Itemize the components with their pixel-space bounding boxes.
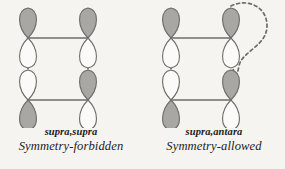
lobe-empty-top bbox=[163, 70, 180, 100]
lobe-shaded-top bbox=[223, 8, 240, 38]
lobe-empty-bottom bbox=[80, 100, 97, 128]
lobe-shaded-top bbox=[20, 8, 37, 38]
orbital-diagram-supra-supra bbox=[0, 0, 142, 128]
caption-supra-supra: supra,supra Symmetry-forbidden bbox=[0, 126, 142, 153]
orbital-bottom-left bbox=[163, 70, 180, 128]
orbital-bottom-left bbox=[20, 70, 37, 128]
verdict-label: Symmetry-forbidden bbox=[0, 139, 142, 153]
lobe-empty-top bbox=[20, 70, 37, 100]
panel-supra-antara: supra,antara Symmetry-allowed bbox=[143, 0, 285, 169]
lobe-shaded-top bbox=[163, 8, 180, 38]
verdict-label: Symmetry-allowed bbox=[143, 139, 285, 153]
lobe-shaded-top bbox=[80, 8, 97, 38]
orbital-bottom-right bbox=[223, 70, 240, 128]
lobe-empty-bottom bbox=[223, 38, 240, 68]
lobe-empty-bottom bbox=[223, 100, 240, 128]
caption-supra-antara: supra,antara Symmetry-allowed bbox=[143, 126, 285, 153]
orbital-diagram-supra-antara bbox=[143, 0, 285, 128]
lobe-shaded-bottom bbox=[163, 100, 180, 128]
lobe-empty-bottom bbox=[20, 38, 37, 68]
lobe-shaded-top bbox=[80, 70, 97, 100]
lobe-shaded-top bbox=[223, 70, 240, 100]
mode-label: supra,supra bbox=[0, 126, 142, 138]
orbital-bottom-right bbox=[80, 70, 97, 128]
lobe-empty-bottom bbox=[80, 38, 97, 68]
lobe-empty-bottom bbox=[163, 38, 180, 68]
panel-supra-supra: supra,supra Symmetry-forbidden bbox=[0, 0, 142, 169]
figure-canvas: supra,supra Symmetry-forbidden bbox=[0, 0, 285, 169]
lobe-shaded-bottom bbox=[20, 100, 37, 128]
mode-label: supra,antara bbox=[143, 126, 285, 138]
